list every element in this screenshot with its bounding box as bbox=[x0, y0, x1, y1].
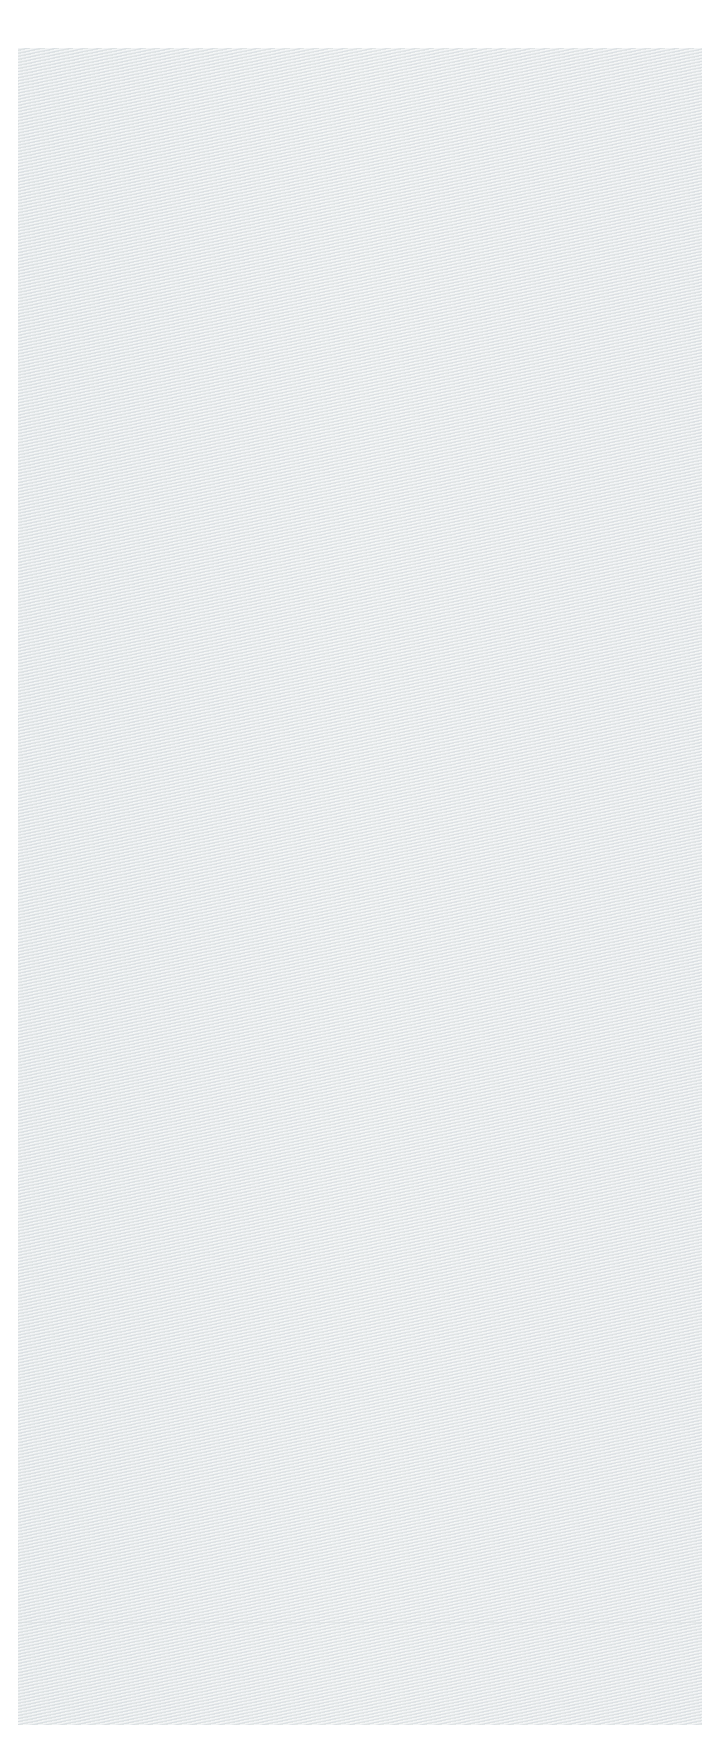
texture-swatch bbox=[18, 48, 702, 1725]
page bbox=[0, 0, 718, 1763]
faint-fold-line bbox=[18, 1622, 702, 1623]
